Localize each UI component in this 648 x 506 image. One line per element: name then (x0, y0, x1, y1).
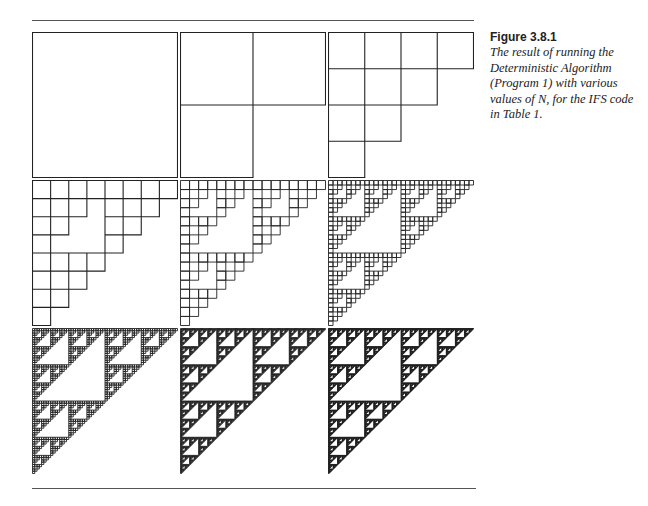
fractal-panel-6 (328, 180, 474, 326)
bottom-rule (32, 488, 476, 489)
top-rule (32, 20, 474, 21)
fractal-panel-7 (32, 328, 178, 474)
fractal-panel-8 (180, 328, 326, 474)
sierpinski-iteration-3 (32, 180, 178, 326)
fractal-panel-3 (328, 32, 474, 178)
sierpinski-iteration-7 (180, 328, 326, 474)
figure-label: Figure 3.8.1 (490, 30, 640, 45)
sierpinski-iteration-5 (328, 180, 474, 326)
fractal-panel-2 (180, 32, 326, 178)
sierpinski-iteration-0 (32, 32, 178, 178)
fractal-panel-1 (32, 32, 178, 178)
sierpinski-iteration-6 (32, 328, 178, 474)
fractal-panel-5 (180, 180, 326, 326)
sierpinski-iteration-8 (328, 328, 474, 474)
sierpinski-iteration-4 (180, 180, 326, 326)
sierpinski-iteration-2 (328, 32, 474, 178)
figure-caption-text: The result of running the Deterministic … (490, 45, 640, 123)
figure-caption: Figure 3.8.1 The result of running the D… (490, 30, 640, 123)
fractal-panel-9 (328, 328, 474, 474)
fractal-panel-4 (32, 180, 178, 326)
sierpinski-iteration-1 (180, 32, 326, 178)
